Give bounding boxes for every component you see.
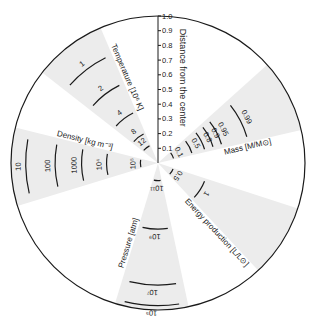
axis-ticks: 0.10.20.30.40.50.60.70.80.91.0 [158, 12, 172, 153]
contour-label-pressure-3: 10⁵ [146, 308, 158, 317]
axis-tick-label-2: 0.3 [162, 114, 172, 123]
contour-label-density-1: 10⁴ [94, 159, 103, 171]
contour-label-pressure-2: 10⁷ [146, 288, 158, 297]
axis-tick-label-0: 0.1 [162, 144, 172, 153]
contour-label-density-2: 1000 [69, 157, 78, 174]
axis-tick-label-8: 0.9 [162, 26, 172, 35]
axis-tick-label-3: 0.4 [162, 100, 172, 109]
axis-tick-label-6: 0.7 [162, 56, 172, 65]
axis-tick-label-5: 0.6 [162, 70, 172, 79]
axis-label: Distance from the center [178, 29, 188, 127]
contour-label-density-0: 10⁵ [128, 158, 137, 170]
axis-tick-label-1: 0.2 [162, 129, 172, 138]
axis-tick-label-7: 0.8 [162, 41, 172, 50]
diagram-canvas: 0.10.20.30.40.50.60.70.80.91.0 Distance … [0, 0, 314, 323]
contour-label-density-4: 10 [14, 162, 23, 171]
contour-label-pressure-0: 10¹¹ [150, 183, 164, 193]
axis-tick-label-4: 0.5 [162, 85, 172, 94]
solar-interior-diagram: 0.10.20.30.40.50.60.70.80.91.0 Distance … [0, 0, 314, 323]
contour-label-density-3: 100 [43, 160, 52, 173]
axis-tick-label-9: 1.0 [162, 12, 172, 21]
contour-label-pressure-1: 10⁹ [149, 232, 161, 241]
